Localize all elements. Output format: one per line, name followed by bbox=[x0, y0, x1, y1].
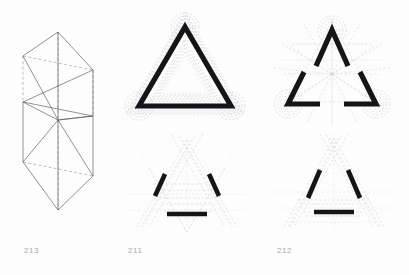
figure-212-top-drawing bbox=[270, 16, 395, 128]
figure-211-top bbox=[125, 16, 245, 126]
figure-211-bottom bbox=[125, 132, 250, 237]
fig212b-construction-grid bbox=[272, 134, 397, 230]
fig211b-construction-grid bbox=[125, 134, 250, 232]
figure-213 bbox=[14, 10, 119, 235]
figure-212-bottom-drawing bbox=[272, 132, 397, 237]
figure-213-caption: 213 bbox=[24, 246, 39, 255]
figure-211-caption: 211 bbox=[128, 246, 143, 255]
fig211-main-triangle bbox=[139, 27, 231, 106]
figure-212-bottom bbox=[272, 132, 397, 237]
figure-211-top-drawing bbox=[125, 16, 245, 126]
figure-sheet: 213 bbox=[0, 0, 409, 275]
fig213-visible-edges bbox=[23, 32, 93, 210]
figure-212-caption: 212 bbox=[277, 246, 292, 255]
figure-211-bottom-drawing bbox=[125, 132, 250, 237]
figure-213-drawing bbox=[14, 10, 119, 235]
figure-212-top bbox=[270, 16, 395, 128]
